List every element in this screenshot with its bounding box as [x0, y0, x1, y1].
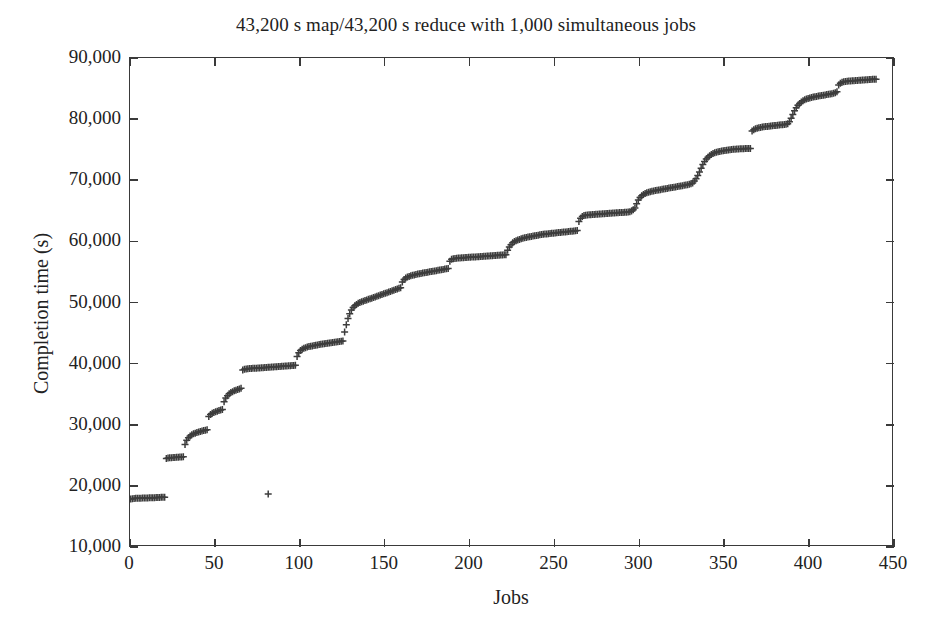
data-point-marker	[341, 329, 348, 336]
data-point-marker	[832, 89, 839, 96]
y-axis-tickmark	[130, 546, 138, 548]
y-axis-tick-label: 60,000	[69, 229, 121, 251]
data-point-marker	[696, 168, 703, 175]
data-point-marker	[445, 265, 452, 272]
x-axis-tick-label: 300	[624, 552, 653, 574]
data-point-marker	[788, 115, 795, 122]
data-point-marker	[698, 165, 705, 172]
data-series-completion-time	[129, 76, 880, 503]
data-point-marker	[161, 494, 168, 501]
x-axis-tick-label: 0	[124, 552, 134, 574]
data-point-marker	[182, 441, 189, 448]
x-axis-tick-label: 100	[285, 552, 314, 574]
data-point-marker	[221, 398, 228, 405]
x-axis-title: Jobs	[129, 586, 893, 609]
data-point-marker	[180, 453, 187, 460]
y-axis-tick-label: 70,000	[69, 168, 121, 190]
x-axis-tickmark	[893, 58, 895, 66]
data-point-marker	[204, 426, 211, 433]
data-point-marker	[339, 338, 346, 345]
y-axis-tick-label: 30,000	[69, 413, 121, 435]
y-axis-tick-label: 20,000	[69, 474, 121, 496]
data-point-marker	[346, 310, 353, 317]
data-point-marker	[294, 353, 301, 360]
x-axis-tick-label: 350	[709, 552, 738, 574]
chart-title: 43,200 s map/43,200 s reduce with 1,000 …	[0, 14, 932, 36]
data-point-marker	[873, 76, 880, 83]
data-point-marker	[345, 315, 352, 322]
y-axis-tick-labels: 10,00020,00030,00040,00050,00060,00070,0…	[0, 0, 121, 633]
data-point-marker	[265, 491, 272, 498]
x-axis-tick-label: 200	[454, 552, 483, 574]
y-axis-tick-label: 90,000	[69, 46, 121, 68]
y-axis-tick-label: 50,000	[69, 291, 121, 313]
x-axis-tick-label: 450	[879, 552, 908, 574]
data-point-marker	[343, 321, 350, 328]
data-point-marker	[633, 200, 640, 207]
data-point-marker	[789, 111, 796, 118]
plot-data-layer	[129, 57, 893, 546]
x-axis-tick-label: 50	[204, 552, 223, 574]
y-axis-tick-label: 40,000	[69, 352, 121, 374]
x-axis-tick-label: 150	[369, 552, 398, 574]
x-axis-tickmark	[893, 539, 895, 547]
data-point-marker	[747, 145, 754, 152]
x-axis-tick-label: 250	[539, 552, 568, 574]
data-point-marker	[574, 227, 581, 234]
y-axis-tick-label: 80,000	[69, 107, 121, 129]
data-point-marker	[292, 362, 299, 369]
chart-figure: 43,200 s map/43,200 s reduce with 1,000 …	[0, 0, 932, 633]
y-axis-tick-label: 10,000	[69, 535, 121, 557]
data-point-marker	[502, 251, 509, 258]
x-axis-tick-label: 400	[794, 552, 823, 574]
